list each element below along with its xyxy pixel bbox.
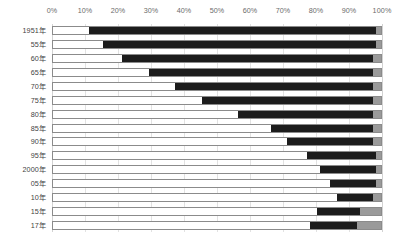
bar-segment-2: [122, 55, 373, 62]
bar-row: [52, 179, 382, 188]
bar-row: [52, 193, 382, 202]
bar-segment-2: [202, 97, 374, 104]
bar-segment-3: [360, 208, 382, 215]
x-axis-tick-label: 80%: [309, 6, 324, 16]
bar-segment-3: [373, 125, 382, 132]
bar-row: [52, 54, 382, 63]
bar-segment-3: [373, 111, 382, 118]
bar-segment-2: [337, 194, 373, 201]
bar-segment-1: [53, 180, 330, 187]
bar-segment-1: [53, 83, 175, 90]
x-axis-tick-label: 40%: [177, 6, 192, 16]
x-axis-tick-label: 70%: [276, 6, 291, 16]
x-axis-tick-label: 10%: [78, 6, 93, 16]
bar-row: [52, 40, 382, 49]
bar-segment-1: [53, 138, 287, 145]
bar-segment-2: [287, 138, 373, 145]
bar-rows: [52, 24, 382, 232]
bar-segment-2: [89, 27, 376, 34]
bar-row: [52, 207, 382, 216]
x-axis-tick-labels: 0%10%20%30%40%50%60%70%80%90%100%: [0, 6, 417, 20]
bar-segment-3: [373, 97, 382, 104]
bar-segment-2: [317, 208, 360, 215]
plot-area: [52, 24, 382, 232]
bar-segment-3: [373, 138, 382, 145]
y-axis-category-label: 60年: [31, 54, 46, 63]
bar-segment-1: [53, 152, 307, 159]
bar-segment-3: [376, 180, 382, 187]
bar-segment-2: [320, 166, 376, 173]
y-axis-category-label: 05年: [31, 179, 46, 188]
bar-row: [52, 68, 382, 77]
bar-segment-2: [310, 222, 356, 229]
bar-segment-1: [53, 208, 317, 215]
bar-segment-3: [376, 166, 382, 173]
bar-segment-1: [53, 194, 337, 201]
x-axis-tick-label: 60%: [243, 6, 258, 16]
bar-segment-1: [53, 97, 202, 104]
bar-row: [52, 96, 382, 105]
bar-segment-2: [330, 180, 376, 187]
x-axis-tick-label: 100%: [373, 6, 392, 16]
bar-segment-3: [373, 194, 382, 201]
bar-row: [52, 124, 382, 133]
bar-segment-1: [53, 125, 271, 132]
y-axis-category-label: 85年: [31, 124, 46, 133]
bar-segment-1: [53, 69, 149, 76]
y-axis-category-label: 10年: [31, 193, 46, 202]
y-axis-category-label: 95年: [31, 151, 46, 160]
bar-segment-2: [271, 125, 373, 132]
y-axis-category-label: 2000年: [23, 165, 47, 174]
x-axis-tick-label: 30%: [144, 6, 159, 16]
bar-segment-3: [376, 41, 382, 48]
bar-segment-1: [53, 166, 320, 173]
bar-row: [52, 26, 382, 35]
bar-segment-3: [373, 83, 382, 90]
bar-segment-1: [53, 111, 238, 118]
bar-segment-1: [53, 41, 103, 48]
y-axis-category-label: 80年: [31, 110, 46, 119]
x-axis-tick-label: 50%: [210, 6, 225, 16]
bar-segment-2: [238, 111, 373, 118]
bar-row: [52, 110, 382, 119]
bar-segment-3: [376, 27, 382, 34]
x-axis-tick-label: 20%: [111, 6, 126, 16]
bar-segment-2: [307, 152, 376, 159]
y-axis-category-label: 17年: [31, 221, 46, 230]
x-axis-tick-label: 0%: [47, 6, 58, 16]
y-axis-category-label: 55年: [31, 40, 46, 49]
y-axis-category-label: 65年: [31, 68, 46, 77]
bar-row: [52, 82, 382, 91]
bar-segment-2: [175, 83, 373, 90]
y-axis-category-label: 70年: [31, 82, 46, 91]
bar-segment-3: [373, 55, 382, 62]
y-axis-category-label: 75年: [31, 96, 46, 105]
bar-segment-3: [376, 152, 382, 159]
y-axis-category-label: 90年: [31, 137, 46, 146]
y-axis-category-label: 1951年: [23, 26, 47, 35]
y-axis-category-label: 15年: [31, 207, 46, 216]
x-axis-tick-label: 90%: [342, 6, 357, 16]
gridline: [382, 24, 383, 232]
bar-row: [52, 165, 382, 174]
bar-row: [52, 221, 382, 230]
bar-row: [52, 137, 382, 146]
bar-segment-2: [103, 41, 377, 48]
bar-segment-3: [373, 69, 382, 76]
y-axis-category-labels: 1951年55年60年65年70年75年80年85年90年95年2000年05年…: [0, 24, 50, 232]
bar-segment-1: [53, 55, 122, 62]
percent-stacked-bar-chart: 0%10%20%30%40%50%60%70%80%90%100% 1951年5…: [0, 0, 417, 238]
bar-segment-1: [53, 27, 89, 34]
bar-segment-2: [149, 69, 373, 76]
bar-segment-1: [53, 222, 310, 229]
bar-segment-3: [357, 222, 382, 229]
bar-row: [52, 151, 382, 160]
